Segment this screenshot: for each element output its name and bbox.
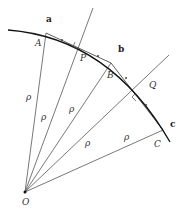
rho-label-OP: ρ [40,112,47,122]
arc-abc [8,30,170,142]
label-O: O [22,197,30,207]
label-b: b [118,44,124,54]
tick-dot [125,77,127,79]
origin-point [24,191,27,194]
tick-dot [145,104,147,106]
arc-radius-diagram: O a b c A P B Q C ρ ρ ρ ρ ρ [0,0,182,209]
label-B: B [106,70,114,80]
label-P: P [79,53,87,63]
label-A: A [34,38,42,48]
label-c: c [170,119,176,129]
radius-OP-extended [25,8,93,192]
rho-label-OB: ρ [68,104,75,114]
rho-label-OQ: ρ [84,138,91,148]
right-angle-mark-P [73,42,78,49]
label-a: a [46,14,52,24]
chord-AB [46,33,111,63]
rho-label-OA: ρ [25,92,32,102]
rho-label-OC: ρ [123,132,130,142]
tick-dot [97,55,99,57]
label-Q: Q [149,80,157,90]
label-C: C [154,139,161,149]
radius-OQ-extended [25,55,169,192]
tick-dot [61,39,63,41]
